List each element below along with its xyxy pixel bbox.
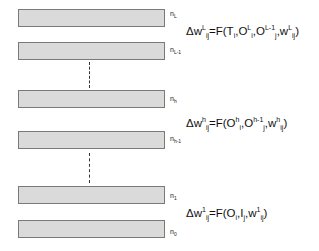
layer-label-nL: nL: [170, 10, 177, 19]
dashed-connector-top: [89, 62, 92, 88]
layer-bar-n0: [18, 220, 165, 238]
layer-bar-nh-1: [18, 131, 165, 149]
equation-hidden-layer: Δwhij=F(Ohi,Oh-1j,whij): [186, 116, 287, 131]
layer-label-nL-1: nL-1: [170, 46, 181, 55]
dashed-connector-bottom: [89, 153, 92, 183]
layer-label-nh: nh: [170, 95, 177, 104]
layer-bar-nh: [18, 90, 165, 108]
layer-bar-nL-1: [18, 42, 165, 60]
layer-label-nh-1: nh-1: [170, 135, 181, 144]
equation-output-layer: ΔwLij=F(Ti,OLi,OL-1j,wLij): [186, 24, 299, 39]
layer-bar-nL: [18, 9, 165, 27]
equation-first-layer: Δw1ij=F(Oi,Ij,w1ij): [186, 206, 267, 221]
layer-label-n0: n0: [170, 228, 177, 237]
layer-label-n1: n1: [170, 192, 177, 201]
layer-bar-n1: [18, 186, 165, 204]
